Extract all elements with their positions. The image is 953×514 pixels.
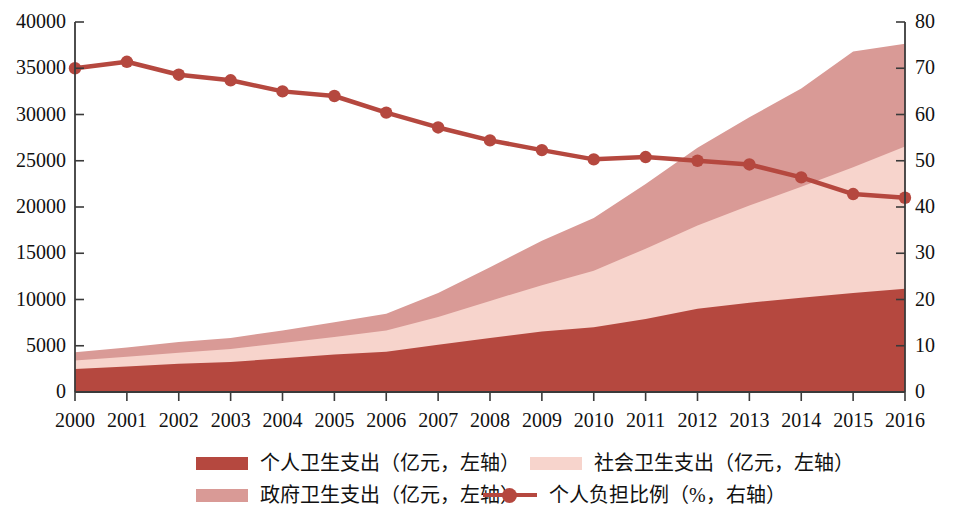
right-axis-tick-label: 20 (915, 289, 935, 309)
legend-item[interactable]: 政府卫生支出（亿元，左轴） (196, 484, 520, 506)
ratio-line-marker (847, 188, 859, 200)
left-axis-tick-label: 30000 (16, 104, 66, 124)
ratio-line-marker (536, 144, 548, 156)
ratio-line-marker (432, 121, 444, 133)
ratio-line-marker (691, 155, 703, 167)
ratio-line-marker (588, 153, 600, 165)
legend-label: 社会卫生支出（亿元，左轴） (594, 452, 854, 474)
ratio-line-marker (173, 69, 185, 81)
legend-color-swatch (196, 489, 248, 502)
ratio-line-marker (121, 56, 133, 68)
ratio-line-marker (795, 171, 807, 183)
ratio-line-marker (484, 134, 496, 146)
right-axis-tick-label: 0 (915, 381, 925, 401)
ratio-line-marker (224, 74, 236, 86)
legend-item[interactable]: 个人负担比例（%，右轴） (483, 484, 786, 506)
left-axis-tick-label: 15000 (16, 242, 66, 262)
legend-line-marker-icon (483, 488, 537, 502)
legend-color-swatch (196, 457, 248, 470)
right-axis-tick-label: 50 (915, 150, 935, 170)
ratio-line-marker (380, 106, 392, 118)
area-series-group (75, 44, 905, 392)
legend-label: 个人负担比例（%，右轴） (549, 484, 786, 506)
ratio-line-marker (743, 158, 755, 170)
left-axis-tick-label: 10000 (16, 289, 66, 309)
ratio-line-marker (276, 85, 288, 97)
legend-label: 政府卫生支出（亿元，左轴） (260, 484, 520, 506)
left-axis-tick-label: 25000 (16, 150, 66, 170)
legend-item[interactable]: 社会卫生支出（亿元，左轴） (530, 452, 854, 474)
x-axis-tick-label: 2016 (875, 410, 935, 430)
ratio-line-marker (639, 151, 651, 163)
stacked-area-chart-svg (0, 0, 953, 445)
left-axis-tick-label: 5000 (26, 335, 66, 355)
left-axis-tick-label: 35000 (16, 57, 66, 77)
right-axis-tick-label: 10 (915, 335, 935, 355)
left-axis-tick-label: 40000 (16, 11, 66, 31)
legend-dot-icon (502, 488, 517, 503)
right-axis-tick-label: 40 (915, 196, 935, 216)
chart-legend: 个人卫生支出（亿元，左轴）社会卫生支出（亿元，左轴）政府卫生支出（亿元，左轴）个… (0, 446, 953, 514)
right-axis-tick-label: 70 (915, 57, 935, 77)
right-axis-tick-label: 80 (915, 11, 935, 31)
chart-root: 4000035000300002500020000150001000050000… (0, 0, 953, 514)
legend-item[interactable]: 个人卫生支出（亿元，左轴） (196, 452, 520, 474)
chart-plot-area (0, 0, 953, 445)
legend-color-swatch (530, 457, 582, 470)
ratio-line-marker (328, 90, 340, 102)
right-axis-tick-label: 30 (915, 242, 935, 262)
left-axis-tick-label: 0 (56, 381, 66, 401)
legend-label: 个人卫生支出（亿元，左轴） (260, 452, 520, 474)
right-axis-tick-label: 60 (915, 104, 935, 124)
left-axis-tick-label: 20000 (16, 196, 66, 216)
